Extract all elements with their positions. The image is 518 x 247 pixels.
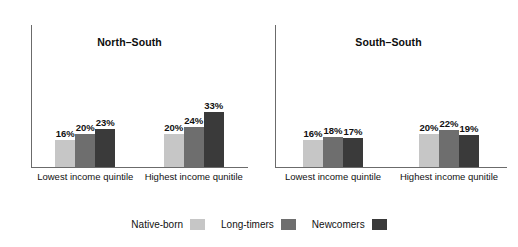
plot-area-north-south: 16% 20% 23% Lowest income quintile [31, 25, 248, 168]
legend-swatch-newcomers [372, 219, 387, 230]
bar-value-label: 16% [56, 128, 75, 139]
bar-value-label: 23% [96, 117, 115, 128]
bar-slot-native-born: 16% [55, 25, 75, 167]
bar-value-label: 18% [323, 125, 342, 136]
bar-value-label: 20% [76, 122, 95, 133]
bar-native-born[interactable] [164, 134, 184, 167]
bar-value-label: 33% [204, 100, 223, 111]
bar-slot-native-born: 20% [419, 25, 439, 167]
legend-item-long-timers[interactable]: Long-timers [221, 219, 296, 230]
bar-slot-native-born: 16% [303, 25, 323, 167]
bar-long-timers[interactable] [75, 134, 95, 167]
bar-newcomers[interactable] [204, 112, 224, 167]
bar-groups: 16% 18% 17% Lowest income quintile [275, 25, 507, 167]
bar-slot-newcomers: 17% [343, 25, 363, 167]
panel-south-south: South–South 16% 18% [259, 0, 518, 200]
bar-group-highest-income-quintile: 20% 22% 19% Highest income qunitile [419, 25, 479, 167]
chart-legend: Native-born Long-timers Newcomers [0, 219, 518, 230]
bar-native-born[interactable] [419, 134, 439, 167]
bar-newcomers[interactable] [459, 135, 479, 167]
legend-label-native-born: Native-born [131, 219, 183, 230]
legend-label-newcomers: Newcomers [312, 219, 365, 230]
bar-group-lowest-income-quintile: 16% 20% 23% Lowest income quintile [55, 25, 115, 167]
bar-slot-long-timers: 22% [439, 25, 459, 167]
bar-slot-newcomers: 19% [459, 25, 479, 167]
legend-item-native-born[interactable]: Native-born [131, 219, 205, 230]
bar-long-timers[interactable] [439, 130, 459, 167]
bar-value-label: 24% [184, 115, 203, 126]
bar-slot-long-timers: 24% [184, 25, 204, 167]
bar-long-timers[interactable] [323, 137, 343, 167]
bar-slot-newcomers: 23% [95, 25, 115, 167]
legend-label-long-timers: Long-timers [221, 219, 274, 230]
bar-slot-native-born: 20% [164, 25, 184, 167]
bar-slot-long-timers: 18% [323, 25, 343, 167]
bar-value-label: 16% [303, 128, 322, 139]
bar-native-born[interactable] [303, 140, 323, 167]
x-axis-line [275, 167, 507, 168]
bar-value-label: 20% [419, 122, 438, 133]
bar-value-label: 17% [343, 126, 362, 137]
bar-groups: 16% 20% 23% Lowest income quintile [31, 25, 248, 167]
x-tick-label-lowest-income-quintile: Lowest income quintile [37, 171, 133, 182]
x-tick-label-lowest-income-quintile: Lowest income quintile [285, 171, 381, 182]
bar-newcomers[interactable] [95, 129, 115, 167]
bar-slot-newcomers: 33% [204, 25, 224, 167]
bar-native-born[interactable] [55, 140, 75, 167]
bar-value-label: 20% [164, 122, 183, 133]
legend-swatch-long-timers [281, 219, 296, 230]
x-tick-label-highest-income-quintile: Highest income qunitile [145, 171, 243, 182]
legend-swatch-native-born [190, 219, 205, 230]
legend-item-newcomers[interactable]: Newcomers [312, 219, 387, 230]
grouped-bar-chart-figure: North–South 16% 20% [0, 0, 518, 247]
panel-north-south: North–South 16% 20% [0, 0, 259, 200]
bar-newcomers[interactable] [343, 138, 363, 167]
plot-area-south-south: 16% 18% 17% Lowest income quintile [275, 25, 507, 168]
bar-value-label: 19% [459, 123, 478, 134]
x-tick-label-highest-income-quintile: Highest income qunitile [400, 171, 498, 182]
bar-group-highest-income-quintile: 20% 24% 33% Highest income qunitile [164, 25, 224, 167]
bar-group-lowest-income-quintile: 16% 18% 17% Lowest income quintile [303, 25, 363, 167]
bar-long-timers[interactable] [184, 127, 204, 167]
bar-slot-long-timers: 20% [75, 25, 95, 167]
x-axis-line [31, 167, 248, 168]
chart-panels: North–South 16% 20% [0, 0, 518, 200]
bar-value-label: 22% [439, 118, 458, 129]
